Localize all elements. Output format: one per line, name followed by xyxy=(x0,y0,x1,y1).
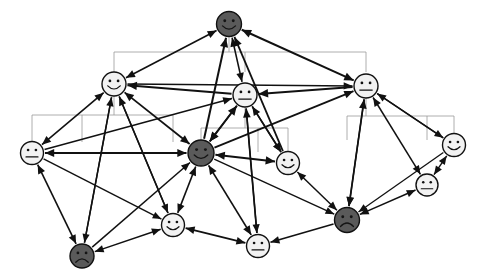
node-far-left-leaf[interactable] xyxy=(21,142,44,165)
node-circle[interactable] xyxy=(247,235,270,258)
edge-shaft xyxy=(258,87,352,94)
face-eye-left xyxy=(168,221,171,224)
face-eye-left xyxy=(361,82,364,85)
edge-shaft xyxy=(242,30,354,81)
edge-shaft xyxy=(373,97,420,174)
edge-n12-to-n6 xyxy=(209,165,252,235)
edge-n11-to-n13 xyxy=(95,229,161,253)
node-circle[interactable] xyxy=(416,174,438,196)
face-eye-right xyxy=(204,148,207,151)
face-eye-left xyxy=(223,19,226,22)
edge-n5-to-n2 xyxy=(42,93,104,145)
edge-shaft xyxy=(214,159,334,214)
edge-shaft xyxy=(38,165,76,244)
arrowhead xyxy=(220,38,228,48)
edge-n9-to-n10 xyxy=(360,190,416,214)
edge-n5-to-n6 xyxy=(45,149,187,157)
node-right-dark-leaf[interactable] xyxy=(335,208,360,233)
face-eye-right xyxy=(117,80,120,83)
face-eye-right xyxy=(176,221,179,224)
node-far-right-leaf[interactable] xyxy=(443,134,466,157)
face-eye-right xyxy=(350,215,353,218)
edge-shaft xyxy=(44,159,162,219)
edge-layer xyxy=(38,30,447,252)
arrowhead xyxy=(83,233,90,242)
node-circle[interactable] xyxy=(162,214,185,237)
edge-shaft xyxy=(95,229,161,251)
face-eye-left xyxy=(195,148,198,151)
edge-shaft xyxy=(209,165,252,235)
edge-n3-to-n6 xyxy=(210,106,237,142)
face-eye-right xyxy=(232,19,235,22)
node-circle[interactable] xyxy=(70,244,94,268)
edge-shaft xyxy=(126,30,217,77)
edge-n4-to-n10 xyxy=(347,99,364,206)
node-circle[interactable] xyxy=(188,140,214,166)
arrowhead xyxy=(373,97,381,106)
node-circle[interactable] xyxy=(335,208,360,233)
edge-shaft xyxy=(42,93,104,145)
edge-n10-to-n7 xyxy=(297,172,337,210)
node-circle[interactable] xyxy=(217,12,242,37)
arrowhead xyxy=(439,156,447,165)
arrowhead xyxy=(189,167,196,177)
node-center-branch[interactable] xyxy=(233,83,257,107)
face-eye-left xyxy=(283,159,286,162)
bracket-root-to-level2 xyxy=(114,36,366,72)
arrowhead xyxy=(95,245,105,252)
node-center-right[interactable] xyxy=(277,152,300,175)
edge-shaft xyxy=(119,96,168,213)
face-eye-right xyxy=(85,252,88,255)
edge-n11-to-n6 xyxy=(177,167,196,213)
arrowhead xyxy=(222,97,232,104)
edge-n9-to-n4 xyxy=(373,97,420,174)
edge-n6-to-n10 xyxy=(214,159,334,214)
edge-shaft xyxy=(84,97,111,242)
edge-shaft xyxy=(270,224,333,242)
face-eye-left xyxy=(77,252,80,255)
arrowhead xyxy=(344,91,354,98)
arrowhead xyxy=(151,229,161,236)
face-eye-right xyxy=(457,141,460,144)
arrowhead xyxy=(347,197,354,206)
node-circle[interactable] xyxy=(102,72,126,96)
edge-n2-to-n1 xyxy=(126,30,217,77)
node-circle[interactable] xyxy=(354,74,378,98)
face-eye-left xyxy=(422,181,425,184)
edge-n10-to-n12 xyxy=(270,224,333,244)
node-left-branch[interactable] xyxy=(102,72,126,96)
diagram-canvas: Hierarchical smiley-face agent network xyxy=(0,0,479,279)
arrowhead xyxy=(161,204,168,213)
face-eye-right xyxy=(291,159,294,162)
edge-n2-to-n11 xyxy=(119,96,168,213)
node-circle[interactable] xyxy=(443,134,466,157)
node-bottom-left-dark[interactable] xyxy=(70,244,94,268)
node-bottom-center[interactable] xyxy=(247,235,270,258)
face-eye-right xyxy=(369,82,372,85)
edge-shaft xyxy=(349,99,364,206)
node-circle[interactable] xyxy=(21,142,44,165)
arrowhead xyxy=(434,165,442,174)
arrowhead xyxy=(406,190,416,197)
edge-n3-to-n12 xyxy=(246,108,260,233)
node-circle[interactable] xyxy=(277,152,300,175)
node-right-lower[interactable] xyxy=(416,174,438,196)
edge-n2-to-n13 xyxy=(83,97,112,242)
face-eye-left xyxy=(253,242,256,245)
face-eye-left xyxy=(27,149,30,152)
node-bottom-mid-left[interactable] xyxy=(162,214,185,237)
face-eye-right xyxy=(261,242,264,245)
arrowhead xyxy=(236,72,243,82)
arrowhead xyxy=(177,203,184,213)
edge-n11-to-n12 xyxy=(186,227,246,245)
edge-n8-to-n9 xyxy=(434,156,447,175)
node-circle[interactable] xyxy=(233,83,257,107)
node-top-root[interactable] xyxy=(217,12,242,37)
face-eye-right xyxy=(35,149,38,152)
edge-n4-to-n3 xyxy=(258,87,352,98)
node-right-branch[interactable] xyxy=(354,74,378,98)
arrowhead xyxy=(209,165,217,175)
arrowhead xyxy=(434,130,443,138)
node-center-hub[interactable] xyxy=(188,140,214,166)
edge-n5-to-n13 xyxy=(38,165,76,244)
